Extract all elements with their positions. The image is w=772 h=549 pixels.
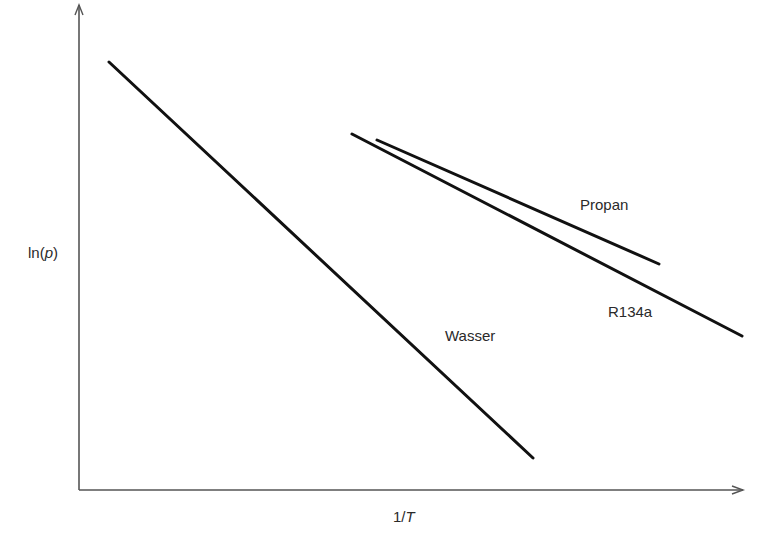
y-axis-label-var: p [45, 244, 53, 261]
x-axis-label-var: T [406, 508, 415, 525]
series-line-r134a [352, 134, 742, 336]
series-label-r134a: R134a [608, 303, 652, 320]
x-axis-label-prefix: 1/ [393, 508, 406, 525]
y-axis-label: ln(p) [28, 244, 58, 261]
x-axis-label: 1/T [393, 508, 415, 525]
y-axis-label-suffix: ) [53, 244, 58, 261]
series-label-propan: Propan [580, 196, 628, 213]
series-line-wasser [109, 62, 533, 458]
series-lines [109, 62, 742, 458]
chart-canvas [0, 0, 772, 549]
y-axis-label-prefix: ln( [28, 244, 45, 261]
series-label-wasser: Wasser [445, 327, 495, 344]
axes [75, 5, 743, 494]
